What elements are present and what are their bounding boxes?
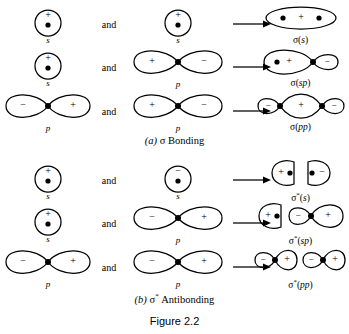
svg-text:+: + [332,253,338,264]
orbital-s-b1-left: + s [2,158,94,202]
orbital-overlap-figure: + s and + s [0,0,349,334]
orbital-s-a2-left: + s [2,45,94,89]
panel-b-caption: (b) σ* Antibonding [0,292,349,305]
panel-b-row-3: − + p and − + p [0,245,349,289]
product-label: σ(pp) [290,122,311,132]
svg-text:+: + [286,55,292,66]
svg-text:+: + [201,211,207,222]
orbital-label: s [46,234,50,244]
orbital-label: p [176,235,181,245]
orbital-label: s [46,78,50,88]
svg-text:+: + [149,99,155,110]
connector-and-a3: and [94,89,124,133]
svg-text:−: − [295,210,300,220]
orbital-s-b1-right: − s [122,158,234,202]
connector-and-b2: and [94,201,124,245]
product-sigma-sp: + − σ(sp) [252,45,349,89]
panel-b-row-2: + s and − + p [0,201,349,245]
svg-text:+: + [278,166,284,177]
product-sigma-star-pp: − + − + σ*(pp) [252,245,349,289]
orbital-s-a1-left: + s [2,2,94,46]
product-label: σ*(pp) [288,278,312,290]
svg-text:−: − [324,56,329,66]
svg-text:−: − [331,100,336,110]
orbital-label: s [176,191,180,201]
orbital-label: p [46,123,51,133]
product-sigma-s: + σ(s) [252,2,349,46]
product-sigma-star-s: + − σ*(s) [252,158,349,202]
svg-text:+: + [70,255,76,266]
svg-text:+: + [45,9,51,20]
orbital-s-a1-right: + s [122,2,234,46]
orbital-p-a3-left: − + p [2,89,94,133]
svg-text:+: + [45,208,51,219]
connector-and-a1: and [94,2,124,46]
orbital-p-a2-right: + − p [122,45,234,89]
svg-text:+: + [45,165,51,176]
svg-text:+: + [284,253,290,264]
connector-and-a2: and [94,45,124,89]
svg-text:−: − [175,165,181,176]
panel-a-caption: (a) σ Bonding [0,135,349,146]
svg-text:+: + [265,209,271,220]
product-sigma-star-sp: + − + σ*(sp) [252,201,349,245]
svg-text:−: − [265,100,270,110]
svg-text:−: − [201,99,207,110]
product-label: σ(sp) [291,78,311,88]
svg-text:+: + [175,9,181,20]
svg-text:+: + [298,99,304,110]
product-sigma-pp: − + − σ(pp) [252,89,349,133]
svg-text:−: − [20,255,26,266]
svg-text:−: − [149,255,155,266]
orbital-label: s [176,35,180,45]
orbital-label: p [46,279,51,289]
svg-text:+: + [45,52,51,63]
panel-b-row-1: + s and − s [0,158,349,202]
connector-and-b3: and [94,245,124,289]
svg-text:−: − [20,99,26,110]
svg-text:−: − [260,254,265,264]
orbital-label: s [46,35,50,45]
figure-number: Figure 2.2 [0,315,349,327]
orbital-label: p [176,123,181,133]
svg-text:−: − [149,211,155,222]
panel-a-row-1: + s and + s [0,2,349,46]
panel-a-row-3: − + p and + − p [0,89,349,133]
svg-text:−: − [308,254,313,264]
orbital-p-a3-right: + − p [122,89,234,133]
orbital-s-b2-left: + s [2,201,94,245]
svg-text:−: − [201,55,207,66]
orbital-p-b3-right: − + p [122,245,234,289]
connector-and-b1: and [94,158,124,202]
orbital-label: p [176,279,181,289]
orbital-p-b2-right: − + p [122,201,234,245]
orbital-label: p [176,79,181,89]
svg-text:+: + [298,11,304,22]
orbital-p-b3-left: − + p [2,245,94,289]
panel-a-row-2: + s and + − p [0,45,349,89]
svg-text:+: + [149,55,155,66]
orbital-label: s [46,191,50,201]
svg-text:+: + [70,99,76,110]
svg-text:+: + [325,209,331,220]
svg-text:+: + [201,255,207,266]
product-label: σ(s) [293,35,308,45]
svg-text:−: − [319,166,325,177]
